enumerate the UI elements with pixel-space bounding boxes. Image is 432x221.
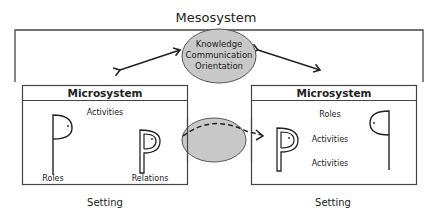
left-label-activities: Activities [87, 108, 124, 117]
left-microsystem-box: Microsystem Activities Roles Relations [23, 86, 188, 185]
right-label-activities-2: Activities [312, 159, 349, 168]
ellipse-line-knowledge: Knowledge [196, 39, 243, 49]
left-setting-caption: Setting [87, 197, 123, 208]
left-microsystem-header: Microsystem [67, 87, 142, 99]
right-label-activities-1: Activities [312, 135, 349, 144]
ellipse-line-orientation: Orientation [195, 61, 243, 71]
right-double-arrow [258, 50, 320, 70]
right-microsystem-header: Microsystem [296, 87, 371, 99]
right-setting-caption: Setting [315, 197, 351, 208]
left-label-roles: Roles [42, 174, 63, 183]
mesosystem-diagram: Mesosystem Knowledge Communication Orien… [0, 0, 432, 221]
ellipse-line-communication: Communication [186, 50, 253, 60]
mesosystem-title: Mesosystem [176, 10, 257, 25]
left-label-relations: Relations [132, 174, 169, 183]
left-double-arrow [120, 50, 180, 70]
transfer-ellipse [182, 118, 246, 162]
right-microsystem-box: Microsystem Roles Activities Activities [252, 86, 417, 185]
right-label-roles: Roles [319, 110, 340, 119]
